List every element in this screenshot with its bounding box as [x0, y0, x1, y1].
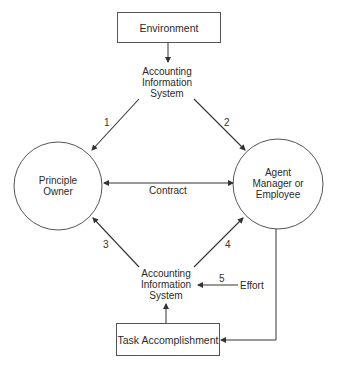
effort-label: Effort — [240, 280, 264, 291]
environment-label: Environment — [140, 22, 199, 34]
arrow-3-number: 3 — [103, 239, 109, 250]
principal-line-1: Principle — [18, 175, 98, 186]
task-accomplishment-box: Task Accomplishment — [116, 323, 220, 356]
ais-bottom-label: Accounting Information System — [126, 268, 206, 301]
ais-top-line-3: System — [127, 88, 207, 99]
arrow-2 — [194, 99, 245, 150]
environment-box: Environment — [117, 12, 221, 43]
contract-label: Contract — [128, 185, 208, 196]
principal-owner-label: Principle Owner — [18, 175, 98, 197]
ais-top-label: Accounting Information System — [127, 66, 207, 99]
arrow-3 — [93, 218, 139, 267]
ais-top-line-1: Accounting — [127, 66, 207, 77]
arrow-4-number: 4 — [225, 239, 231, 250]
arrow-2-number: 2 — [224, 117, 230, 128]
effort-number: 5 — [219, 273, 225, 284]
ais-bottom-line-1: Accounting — [126, 268, 206, 279]
principal-line-2: Owner — [18, 186, 98, 197]
agent-label: Agent Manager or Employee — [238, 167, 318, 200]
arrow-1-number: 1 — [104, 117, 110, 128]
ais-bottom-line-2: Information — [126, 279, 206, 290]
agent-line-3: Employee — [238, 189, 318, 200]
task-accomplishment-label: Task Accomplishment — [118, 334, 219, 346]
ais-bottom-line-3: System — [126, 290, 206, 301]
arrow-4 — [194, 218, 243, 267]
agent-line-1: Agent — [238, 167, 318, 178]
agent-line-2: Manager or — [238, 178, 318, 189]
ais-top-line-2: Information — [127, 77, 207, 88]
arrow-1 — [92, 99, 139, 150]
